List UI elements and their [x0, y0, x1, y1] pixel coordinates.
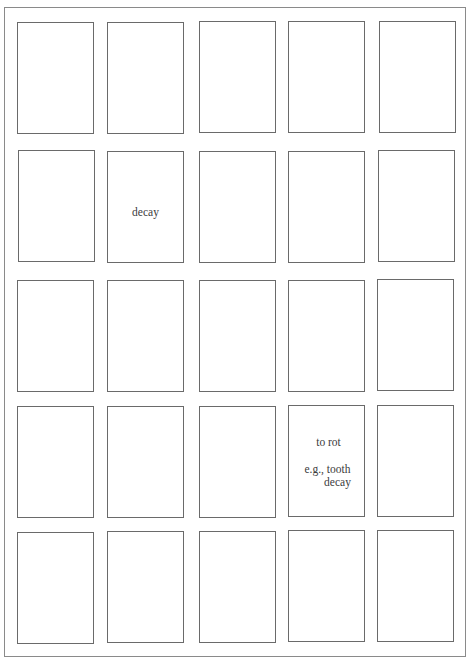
card-front-text: decay — [108, 206, 183, 219]
flashcard-r1c1 — [17, 22, 94, 134]
flashcard-r3c2 — [107, 280, 184, 392]
flashcard-r4c3 — [199, 406, 276, 518]
flashcard-r1c3 — [199, 21, 276, 133]
card-back-example-line2: decay — [311, 476, 364, 489]
flashcard-r1c4 — [288, 21, 365, 133]
card-back-example-line1: e.g., tooth — [291, 463, 364, 476]
flashcard-r5c3 — [199, 531, 276, 643]
flashcard-r1c5 — [379, 21, 456, 133]
flashcard-r3c4 — [288, 280, 365, 392]
flashcard-r3c5 — [377, 279, 454, 391]
flashcard-r1c2 — [107, 22, 184, 134]
flashcard-r5c5 — [377, 530, 454, 642]
flashcard-r4c4: to rot e.g., tooth decay — [288, 405, 365, 517]
flashcard-r2c4 — [288, 151, 365, 263]
flashcard-r4c5 — [377, 405, 454, 517]
flashcard-r2c5 — [378, 150, 455, 262]
flashcard-r5c2 — [107, 531, 184, 643]
flashcard-r5c4 — [288, 530, 365, 642]
flashcard-r4c2 — [107, 406, 184, 518]
flashcard-r5c1 — [17, 532, 94, 644]
flashcard-r2c3 — [199, 151, 276, 263]
flashcard-r3c1 — [17, 280, 94, 392]
flashcard-r2c1 — [18, 150, 95, 262]
flashcard-r3c3 — [199, 280, 276, 392]
flashcard-r2c2: decay — [107, 151, 184, 263]
flashcard-r4c1 — [17, 406, 94, 518]
card-back-definition: to rot — [293, 436, 364, 449]
